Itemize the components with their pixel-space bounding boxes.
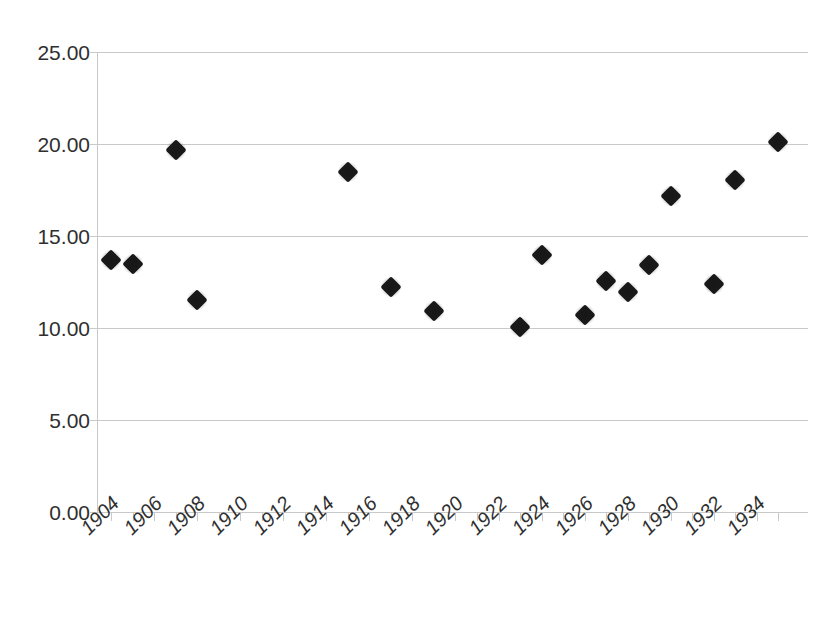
x-tick-label: 1924 <box>508 493 554 539</box>
x-tick-label: 1920 <box>421 493 467 539</box>
x-tick-mark <box>778 513 779 521</box>
x-tick-label: 1908 <box>163 493 209 539</box>
x-tick-label: 1926 <box>551 493 597 539</box>
x-tick-label: 1918 <box>378 493 424 539</box>
x-tick-label: 1910 <box>206 493 252 539</box>
x-tick-label: 1916 <box>335 493 381 539</box>
x-tick-label: 1928 <box>594 493 640 539</box>
x-tick-label: 1930 <box>637 493 683 539</box>
x-tick-label: 1922 <box>465 493 511 539</box>
scatter-chart: 25.0020.0015.0010.005.000.00 19041906190… <box>0 0 823 618</box>
x-tick-label: 1906 <box>120 493 166 539</box>
x-tick-label: 1912 <box>249 493 295 539</box>
x-tick-label: 1904 <box>77 493 123 539</box>
x-tick-label: 1914 <box>292 493 338 539</box>
x-axis-labels: 1904190619081910191219141916191819201922… <box>0 0 823 618</box>
x-tick-label: 1932 <box>680 493 726 539</box>
x-tick-label: 1934 <box>723 493 769 539</box>
